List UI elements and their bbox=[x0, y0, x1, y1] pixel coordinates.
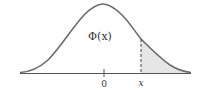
shaded-tail-region bbox=[141, 39, 191, 74]
normal-distribution-diagram: Φ(x) 0 x bbox=[0, 0, 204, 91]
curve-label: Φ(x) bbox=[88, 30, 112, 43]
tick-label-zero: 0 bbox=[101, 79, 107, 89]
tick-label-x: x bbox=[138, 78, 143, 88]
